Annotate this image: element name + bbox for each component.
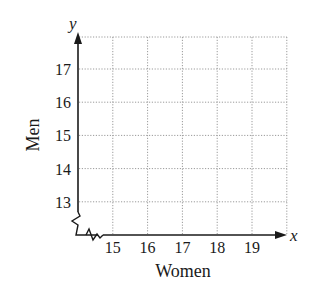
x-axis-title: Women [155, 261, 211, 281]
dotted-grid [79, 37, 287, 234]
x-tick-label: 18 [209, 239, 225, 256]
y-tick-label: 15 [55, 127, 71, 144]
y-tick-label: 14 [55, 161, 71, 178]
y-axis-symbol: y [67, 14, 77, 33]
x-axis-arrow-icon [275, 231, 287, 239]
axes [72, 32, 287, 240]
x-tick-label: 15 [105, 239, 121, 256]
y-tick-label: 16 [55, 94, 71, 111]
coordinate-grid-chart: 15161718191314151617 y x Women Men [0, 0, 323, 296]
y-axis-break-icon [72, 212, 98, 235]
x-tick-label: 19 [244, 239, 260, 256]
y-tick-label: 17 [55, 61, 71, 78]
y-axis-arrow-icon [74, 32, 82, 44]
y-tick-label: 13 [55, 194, 71, 211]
x-tick-label: 16 [140, 239, 156, 256]
x-axis-symbol: x [289, 226, 298, 245]
tick-labels: 15161718191314151617 [55, 61, 260, 256]
x-tick-label: 17 [174, 239, 190, 256]
y-axis-title: Men [23, 119, 43, 152]
